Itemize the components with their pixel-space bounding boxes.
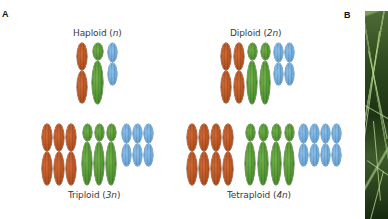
triploid-caption: Triploid (3n) <box>68 190 120 200</box>
chromosome-green <box>245 124 255 185</box>
chromosome-orange <box>223 124 233 185</box>
chromosome-orange <box>66 124 76 185</box>
chromosome-green <box>94 124 104 185</box>
haploid-chromosomes <box>77 43 117 104</box>
chromosome-orange <box>211 124 221 185</box>
tetraploid-caption: Tetraploid (4n) <box>227 190 291 200</box>
diploid-caption: Diploid (2n) <box>230 28 282 38</box>
chromosome-green <box>258 124 268 185</box>
triploid-chromosomes <box>42 124 153 185</box>
chromosome-green <box>284 124 294 185</box>
chromosome-blue <box>299 124 308 166</box>
haploid-caption: Haploid (n) <box>73 28 122 38</box>
chromosome-green <box>271 124 281 185</box>
diploid-chromosomes <box>221 43 294 104</box>
tetraploid-chromosomes <box>187 124 341 185</box>
chromosome-blue <box>332 124 341 166</box>
chromosome-orange <box>221 43 231 103</box>
chromosome-blue <box>321 124 330 166</box>
chromosome-orange <box>187 124 197 185</box>
chromosome-blue <box>274 43 283 85</box>
chromosome-green <box>92 43 103 104</box>
chromosome-green <box>260 43 270 104</box>
panel-b-label: B <box>344 10 351 20</box>
chromosome-green <box>247 43 257 104</box>
chromosome-orange <box>199 124 209 185</box>
grass-photo <box>365 11 388 219</box>
chromosome-blue <box>285 43 294 85</box>
chromosome-green <box>82 124 92 185</box>
chromosome-blue <box>108 43 117 85</box>
chromosome-blue <box>133 124 142 166</box>
chromosome-blue <box>310 124 319 166</box>
chromosome-blue <box>122 124 131 166</box>
chromosome-green <box>106 124 116 185</box>
chromosome-blue <box>144 124 153 166</box>
chromosome-orange <box>77 43 87 103</box>
chromosome-orange <box>42 124 52 185</box>
chromosome-orange <box>54 124 64 185</box>
chromosome-orange <box>234 43 244 103</box>
panel-a-label: A <box>2 9 9 19</box>
